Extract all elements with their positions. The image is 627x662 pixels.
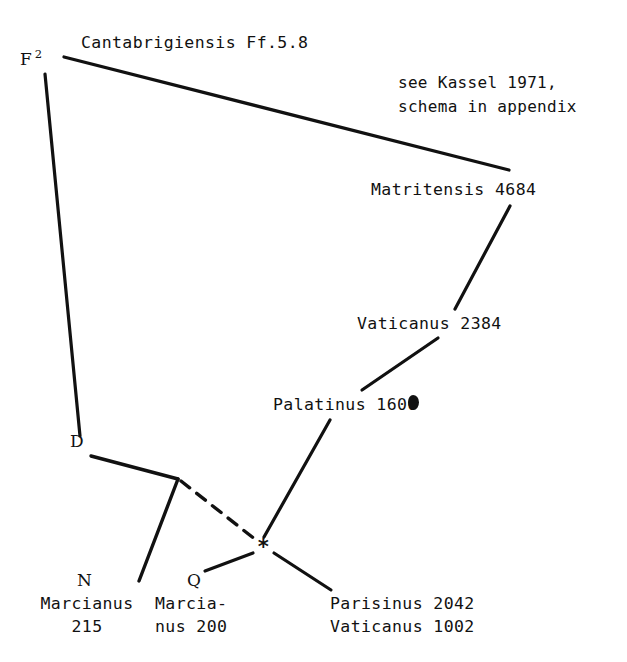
edge-palatinus-to-archetype xyxy=(264,420,330,537)
node-d-sigil: D xyxy=(70,431,84,451)
edge-branch-to-archetype xyxy=(181,481,256,540)
edge-archetype-to-parisinus xyxy=(274,553,331,590)
node-vaticanus-2384: Vaticanus 2384 xyxy=(357,313,502,334)
node-f2-sigil: F2 xyxy=(20,47,42,69)
node-marcianus-215-line2: 215 xyxy=(28,616,146,637)
edge-f2-to-d xyxy=(45,74,80,436)
node-cantabrigiensis: Cantabrigiensis Ff.5.8 xyxy=(81,32,308,53)
annotation-kassel-line2: schema in appendix xyxy=(398,95,577,119)
node-archetype-star: * xyxy=(257,537,270,558)
annotation-kassel-line1: see Kassel 1971, xyxy=(398,71,557,95)
node-marcianus-200-line2: nus 200 xyxy=(155,616,227,637)
edge-archetype-to-marcianus-200 xyxy=(205,553,253,571)
node-vaticanus-1002: Vaticanus 1002 xyxy=(330,616,475,637)
node-n-sigil: N xyxy=(77,570,92,590)
node-marcianus-215-line1: Marcianus xyxy=(28,593,146,614)
node-marcianus-200-line1: Marcia- xyxy=(155,593,227,614)
edge-matritensis-to-vaticanus-2384 xyxy=(455,206,510,309)
ink-blot-overstrike xyxy=(408,395,419,410)
stemma-diagram: F2 Cantabrigiensis Ff.5.8 see Kassel 197… xyxy=(0,0,627,662)
edge-vaticanus-2384-to-palatinus xyxy=(362,338,438,390)
node-q-sigil: Q xyxy=(187,570,201,590)
node-matritensis: Matritensis 4684 xyxy=(371,179,536,200)
node-parisinus: Parisinus 2042 xyxy=(330,593,475,614)
node-palatinus: Palatinus 1600 xyxy=(273,394,418,415)
edge-d-to-branch xyxy=(91,456,178,479)
edge-branch-to-marcianus-215 xyxy=(139,479,178,581)
